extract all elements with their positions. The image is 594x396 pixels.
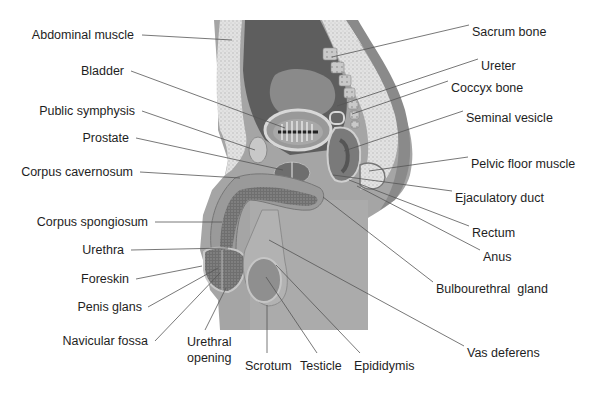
label-sacrum-bone: Sacrum bone	[472, 25, 546, 39]
leader-line-penis-glans	[148, 268, 218, 307]
label-rectum: Rectum	[472, 226, 515, 240]
label-corpus-cavernosum: Corpus cavernosum	[21, 165, 133, 179]
label-urethra: Urethra	[82, 243, 124, 257]
leader-line-navicular-fossa	[155, 273, 220, 341]
label-penis-glans: Penis glans	[77, 300, 142, 314]
label-ejaculatory-duct: Ejaculatory duct	[455, 191, 544, 205]
label-urethral-opening: Urethral opening	[187, 334, 232, 366]
leader-line-foreskin	[136, 266, 202, 279]
label-foreskin: Foreskin	[81, 272, 129, 286]
label-scrotum: Scrotum	[245, 359, 292, 373]
label-ureter: Ureter	[481, 59, 516, 73]
label-bulbourethral-gland: Bulbourethral gland	[436, 282, 548, 296]
label-coccyx-bone: Coccyx bone	[451, 81, 523, 95]
label-anus: Anus	[483, 250, 512, 264]
label-navicular-fossa: Navicular fossa	[63, 334, 148, 348]
label-public-symphysis: Public symphysis	[39, 104, 135, 118]
label-prostate: Prostate	[82, 131, 129, 145]
label-seminal-vesicle: Seminal vesicle	[466, 111, 553, 125]
label-testicle: Testicle	[300, 359, 342, 373]
label-abdominal-muscle: Abdominal muscle	[32, 28, 134, 42]
label-pelvic-floor-muscle: Pelvic floor muscle	[471, 157, 575, 171]
label-epididymis: Epididymis	[354, 359, 414, 373]
label-bladder: Bladder	[81, 64, 124, 78]
label-vas-deferens: Vas deferens	[467, 346, 540, 360]
anatomy-diagram: Abdominal muscle Bladder Public symphysi…	[0, 0, 594, 396]
label-corpus-spongiosum: Corpus spongiosum	[37, 215, 148, 229]
